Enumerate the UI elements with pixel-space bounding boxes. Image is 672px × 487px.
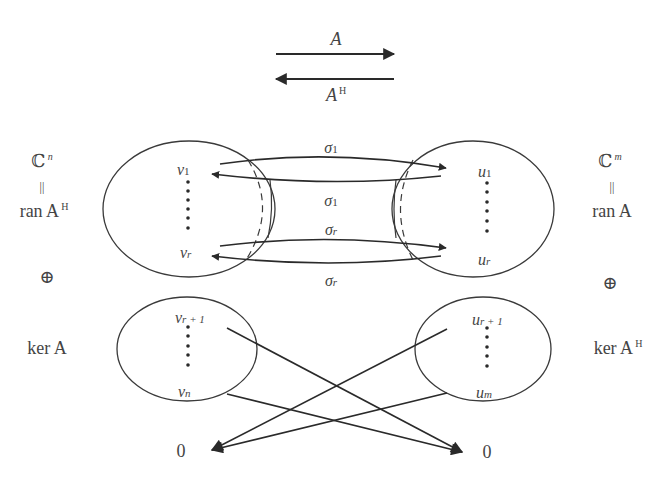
vn-to-zero-arrow [227,394,462,452]
ur1-to-zero-arrow [212,329,447,450]
right-domain-symbol: ℂ [598,151,612,171]
sigmar-bottom-symbol: σ [325,272,333,289]
left-top-dots [186,180,190,230]
sigma1-top-label: σ1 [324,140,337,156]
right-equals: || [610,181,615,193]
right-kernel-sup: H [635,338,642,349]
left-domain-sup: n [48,151,53,162]
forward-operator-label: A [331,30,342,48]
sigma1-top-sub: 1 [332,143,338,155]
diagram-graphics [0,0,672,487]
backward-label-text: A [326,85,337,105]
left-kernel-label: ker A [27,339,67,357]
sigmar-bottom-label: σr [325,273,337,289]
right-domain-label: ℂm [598,152,622,170]
vector-ur: ur [478,252,490,268]
left-range-text: ran A [20,201,60,221]
right-bottom-dots [485,326,489,368]
ur1-symbol: u [472,311,480,328]
vector-vn: vn [178,384,191,400]
right-direct-sum: ⊕ [602,274,617,292]
u1-symbol: u [478,163,486,180]
um-sub: m [484,388,492,400]
sigmar-backward-arrow [212,256,441,263]
vector-vr-plus-1: vr + 1 [175,310,205,326]
u1-sub: 1 [486,167,492,179]
ur1-sub: r + 1 [480,315,503,327]
vr-sub: r [187,248,191,260]
sigmar-bottom-sub: r [333,276,337,288]
legend-arrows [276,54,394,79]
svd-diagram: A AH ℂn || ran AH ⊕ ker A ℂm || ran A ⊕ … [0,0,672,487]
right-kernel-label: ker AH [594,339,643,357]
vn-sub: n [185,387,191,399]
vector-v1: v1 [177,162,190,178]
vr1-to-zero-arrow [227,328,462,452]
backward-label-sup: H [339,85,346,96]
sigmar-top-sub: r [333,225,337,237]
left-equals: || [40,181,45,193]
ur-symbol: u [478,251,486,268]
sigma1-forward-arrow [220,157,446,168]
sigma1-bottom-sub: 1 [332,196,338,208]
right-range-label: ran A [592,202,632,220]
um-to-zero-arrow [212,393,447,450]
ur-sub: r [486,255,490,267]
right-domain-sup: m [615,151,622,162]
um-symbol: u [476,384,484,401]
right-top-dots [485,181,489,233]
left-range-sup: H [61,201,68,212]
left-domain-symbol: ℂ [31,151,45,171]
sigmar-top-symbol: σ [325,221,333,238]
sigmar-top-label: σr [325,222,337,238]
zero-right: 0 [483,443,492,461]
sigma1-bottom-symbol: σ [324,192,332,209]
vector-vr: vr [180,245,191,261]
forward-label-text: A [331,29,342,49]
vr1-sub: r + 1 [182,313,205,325]
vector-u1: u1 [478,164,492,180]
backward-operator-label: AH [326,86,346,104]
vector-ur-plus-1: ur + 1 [472,312,503,328]
left-direct-sum: ⊕ [39,268,54,286]
vector-um: um [476,385,492,401]
left-bottom-dots [186,325,190,367]
left-domain-label: ℂn [31,152,52,170]
right-kernel-text: ker A [594,338,634,358]
sigma1-top-symbol: σ [324,139,332,156]
v1-sub: 1 [184,165,190,177]
right-top-ellipse [392,141,554,277]
left-range-label: ran AH [20,202,69,220]
connector-left [246,160,263,260]
zero-left: 0 [177,442,186,460]
sigma1-bottom-label: σ1 [324,193,337,209]
